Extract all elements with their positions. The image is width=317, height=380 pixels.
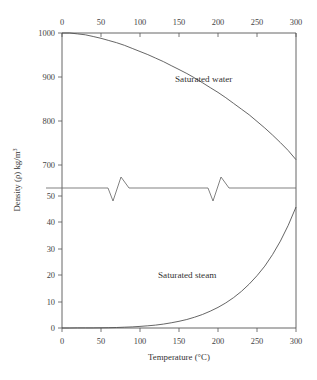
top-x-tick-label: 0 (60, 18, 64, 27)
y-tick-label-30: 30 (47, 245, 55, 254)
top-x-tick-label: 200 (212, 18, 225, 27)
y-axis-title-units: ) kg/m (12, 151, 22, 174)
bottom-x-tick-label: 100 (134, 337, 147, 346)
y-axis-title-group: Density (ρ) kg/m3 (11, 148, 22, 211)
y-tick-label-50: 50 (47, 192, 55, 201)
y-tick-label-900: 900 (42, 73, 55, 82)
density-vs-temperature-chart: 0 50 100 150 200 250 300 0 50 100 150 20… (0, 0, 317, 380)
bottom-x-tick-label: 300 (290, 337, 303, 346)
y-tick-label-0: 0 (51, 324, 55, 333)
bottom-x-tick-label: 150 (173, 337, 186, 346)
y-tick-label-700: 700 (42, 161, 55, 170)
top-x-tick-label: 300 (290, 18, 303, 27)
bottom-x-tick-label: 0 (60, 337, 64, 346)
y-tick-label-20: 20 (47, 271, 55, 280)
y-tick-label-40: 40 (47, 218, 55, 227)
x-axis-title: Temperature (°C) (148, 352, 210, 362)
saturated-water-label: Saturated water (175, 74, 232, 84)
y-axis-title-prefix: Density ( (12, 179, 22, 212)
bottom-x-tick-label: 200 (212, 337, 225, 346)
top-x-tick-label: 100 (134, 18, 147, 27)
top-x-tick-label: 50 (97, 18, 105, 27)
top-x-tick-label: 150 (173, 18, 186, 27)
bottom-x-tick-label: 250 (251, 337, 264, 346)
top-x-tick-label: 250 (251, 18, 264, 27)
bottom-x-tick-label: 50 (97, 337, 105, 346)
svg-text:Density (ρ) kg/m3: Density (ρ) kg/m3 (11, 148, 22, 211)
y-tick-label-1000: 1000 (38, 29, 55, 38)
y-tick-label-10: 10 (47, 298, 55, 307)
y-tick-label-800: 800 (42, 117, 55, 126)
chart-background (0, 0, 317, 380)
y-axis-title-exponent: 3 (11, 148, 18, 151)
chart-figure: 0 50 100 150 200 250 300 0 50 100 150 20… (0, 0, 317, 380)
saturated-steam-label: Saturated steam (158, 270, 216, 280)
